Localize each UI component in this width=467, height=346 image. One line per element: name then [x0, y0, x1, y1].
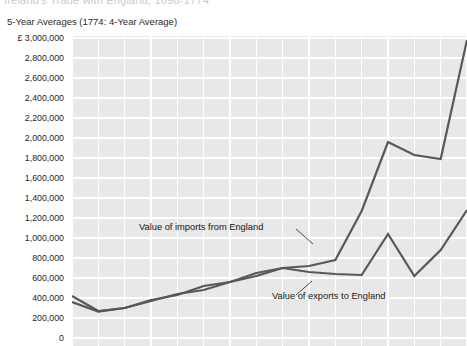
y-axis-tick-label: 1,200,000 [25, 213, 64, 223]
y-axis-tick-label: 600,000 [32, 273, 64, 283]
series-lines [72, 36, 467, 346]
y-axis-tick-label: 2,800,000 [25, 53, 64, 63]
exports-annotation-label: Value of exports to England [272, 291, 386, 302]
y-axis-tick-label: 400,000 [32, 293, 64, 303]
exports-line [72, 210, 467, 312]
y-axis-tick-label: 1,000,000 [25, 233, 64, 243]
plot-area [72, 36, 467, 346]
imports-annotation-label: Value of imports from England [139, 222, 263, 233]
trade-line-chart: Ireland's Trade with England, 1698-1774 … [0, 0, 467, 346]
y-axis: £ 3,000,0002,800,0002,600,0002,400,0002,… [0, 0, 68, 346]
y-axis-tick-label: 2,400,000 [25, 93, 64, 103]
y-axis-tick-label: 2,600,000 [25, 73, 64, 83]
y-axis-tick-label: 2,200,000 [25, 113, 64, 123]
y-axis-tick-label: 1,800,000 [25, 153, 64, 163]
y-axis-tick-label: £ 3,000,000 [18, 33, 64, 43]
y-axis-tick-label: 800,000 [32, 253, 64, 263]
y-axis-tick-label: 1,600,000 [25, 173, 64, 183]
y-axis-tick-label: 1,400,000 [25, 193, 64, 203]
chart-title-cutoff: Ireland's Trade with England, 1698-1774 [4, 0, 464, 6]
y-axis-tick-label: 200,000 [32, 313, 64, 323]
y-axis-tick-label: 2,000,000 [25, 133, 64, 143]
y-axis-tick-label: 0 [59, 333, 64, 343]
